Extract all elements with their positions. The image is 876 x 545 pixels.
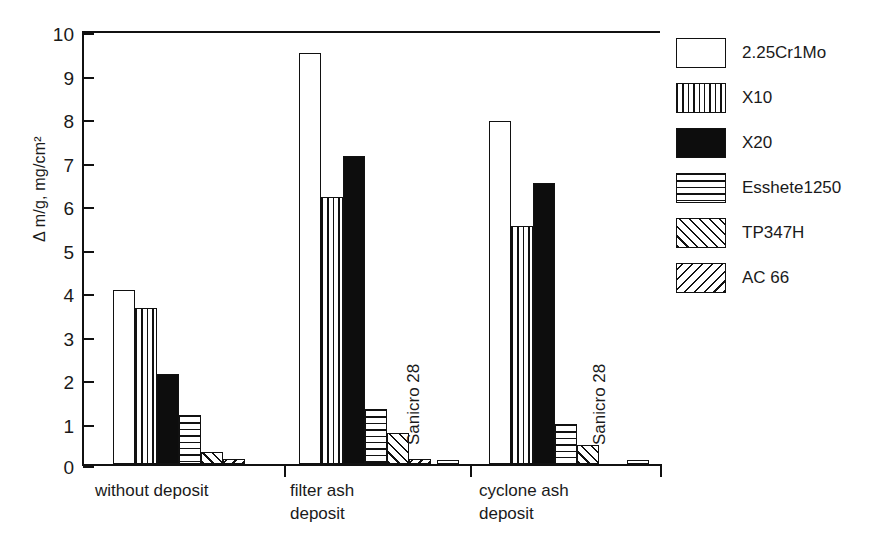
bar-filter-ash-deposit-ac66: [409, 459, 431, 464]
y-tick-label-2: 2: [63, 373, 74, 392]
bar-sanicro28-filter-ash: [437, 460, 459, 464]
bar-cyclone-ash-deposit-x20: [533, 183, 555, 464]
legend-swatch-x20: [676, 128, 726, 158]
y-tick-label-4: 4: [63, 286, 74, 305]
bar-filter-ash-deposit-x20: [343, 156, 365, 464]
legend-label: Esshete1250: [742, 178, 841, 198]
y-tick-label-8: 8: [63, 112, 74, 131]
bars-layer: [84, 33, 660, 464]
y-tick-label-10: 10: [53, 25, 74, 44]
bar-annotation-sanicro-cyclone: Sanicro 28: [591, 364, 608, 445]
legend-item-225cr1mo[interactable]: 2.25Cr1Mo: [676, 30, 876, 75]
x-group-separator-1: [284, 464, 286, 477]
legend: 2.25Cr1MoX10X20Esshete1250TP347HAC 66: [676, 30, 876, 300]
legend-item-ac66[interactable]: AC 66: [676, 255, 876, 300]
y-tick-label-5: 5: [63, 243, 74, 262]
bar-cyclone-ash-deposit-x10: [511, 226, 533, 464]
y-tick-label-9: 9: [63, 69, 74, 88]
bar-without-deposit-tp347h: [201, 452, 223, 464]
bar-without-deposit-esshete1250: [179, 415, 201, 464]
bar-sanicro28-cyclone-ash: [627, 460, 649, 464]
bar-without-deposit-ac66: [223, 459, 245, 464]
bar-cyclone-ash-deposit-tp347h: [577, 445, 599, 464]
legend-label: TP347H: [742, 223, 804, 243]
legend-item-esshete1250[interactable]: Esshete1250: [676, 165, 876, 210]
legend-label: X20: [742, 133, 772, 153]
x-label-cyclone-ash-deposit: cyclone ash deposit: [479, 480, 569, 526]
bar-filter-ash-deposit-225cr1mo: [299, 53, 321, 464]
bar-without-deposit-225cr1mo: [113, 290, 135, 464]
bar-chart-figure: Δ m/g, mg/cm² 10 9 8 7 6 5 4 3 2 1: [0, 0, 876, 545]
bar-cyclone-ash-deposit-esshete1250: [555, 424, 577, 464]
bar-without-deposit-x20: [157, 374, 179, 464]
legend-item-x20[interactable]: X20: [676, 120, 876, 165]
y-tick-label-1: 1: [63, 417, 74, 436]
x-group-separator-2: [470, 464, 472, 477]
y-tick-label-7: 7: [63, 156, 74, 175]
bar-filter-ash-deposit-x10: [321, 197, 343, 464]
bar-filter-ash-deposit-esshete1250: [365, 409, 387, 464]
y-tick-label-3: 3: [63, 330, 74, 349]
legend-swatch-esshete1250: [676, 173, 726, 203]
legend-item-tp347h[interactable]: TP347H: [676, 210, 876, 255]
legend-swatch-ac66: [676, 263, 726, 293]
x-group-separator-3: [660, 464, 662, 477]
legend-swatch-x10: [676, 83, 726, 113]
legend-item-x10[interactable]: X10: [676, 75, 876, 120]
x-label-without-deposit: without deposit: [95, 480, 208, 503]
legend-label: X10: [742, 88, 772, 108]
bar-cyclone-ash-deposit-225cr1mo: [489, 121, 511, 464]
x-label-filter-ash-deposit: filter ash deposit: [290, 480, 354, 526]
legend-swatch-tp347h: [676, 218, 726, 248]
y-tick-label-6: 6: [63, 199, 74, 218]
legend-label: 2.25Cr1Mo: [742, 43, 826, 63]
y-axis-title: Δ m/g, mg/cm²: [31, 79, 49, 299]
legend-label: AC 66: [742, 268, 789, 288]
bar-without-deposit-x10: [135, 308, 157, 464]
bar-annotation-sanicro-filter: Sanicro 28: [405, 364, 422, 445]
legend-swatch-225cr1mo: [676, 38, 726, 68]
y-tick-label-0: 0: [63, 458, 74, 477]
y-tick-0: 0: [83, 466, 94, 468]
plot-area: 10 9 8 7 6 5 4 3 2 1 0: [82, 31, 660, 466]
